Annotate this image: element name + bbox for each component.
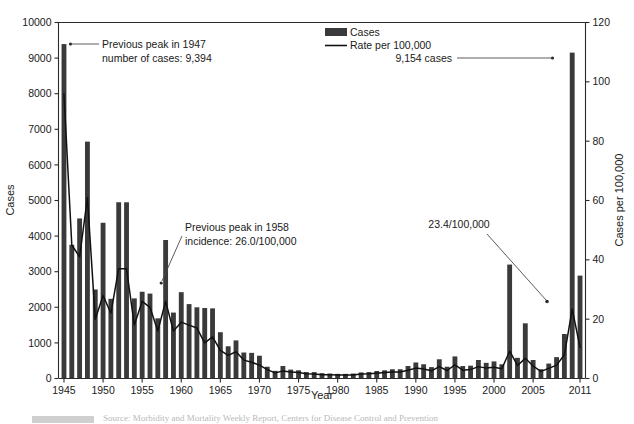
bar-1969 bbox=[249, 353, 254, 379]
bar-1965 bbox=[218, 332, 223, 378]
x-tick-label-1955: 1955 bbox=[130, 384, 154, 396]
annotation-rate-2010-pointer bbox=[545, 300, 549, 304]
annotation-peak-1958-line2: incidence: 26.0/100,000 bbox=[185, 235, 297, 247]
y-tick-label-9000: 9000 bbox=[28, 52, 52, 64]
bar-1993 bbox=[437, 359, 442, 378]
bar-1999 bbox=[484, 363, 489, 379]
bar-1946 bbox=[69, 245, 74, 379]
y-tick-label-10000: 10000 bbox=[22, 16, 51, 28]
bar-2011 bbox=[578, 276, 583, 379]
bar-1998 bbox=[476, 360, 481, 379]
y-tick-label-0: 0 bbox=[46, 372, 52, 384]
x-tick-label-2011: 2011 bbox=[569, 384, 592, 396]
y-axis-right-title: Cases per 100,000 bbox=[613, 154, 625, 247]
bar-1985 bbox=[374, 371, 379, 378]
x-tick-label-1970: 1970 bbox=[248, 384, 272, 396]
annotation-peak-1947-line2: number of cases: 9,394 bbox=[102, 52, 212, 64]
y-axis-left-title: Cases bbox=[4, 184, 16, 216]
annotation-cases-2010-label: 9,154 cases bbox=[395, 52, 452, 64]
annotation-cases-2010-pointer bbox=[551, 56, 554, 59]
legend-swatch-cases bbox=[325, 28, 347, 36]
bar-1948 bbox=[85, 142, 90, 379]
y-tick-label-5000: 5000 bbox=[28, 194, 52, 206]
x-tick-label-1965: 1965 bbox=[209, 384, 233, 396]
y-tick-label-2000: 2000 bbox=[28, 301, 52, 313]
bar-1974 bbox=[288, 370, 293, 379]
bar-2004 bbox=[523, 323, 528, 378]
bar-1968 bbox=[241, 353, 246, 379]
y-tick-label-3000: 3000 bbox=[28, 265, 52, 277]
bar-1991 bbox=[421, 364, 426, 378]
x-tick-label-1950: 1950 bbox=[91, 384, 115, 396]
bar-1975 bbox=[296, 370, 301, 378]
chart-figure: 0100020003000400050006000700080009000100… bbox=[0, 0, 634, 424]
y2-tick-label-40: 40 bbox=[593, 253, 605, 265]
figure-caption-strip: Source: Morbidity and Mortality Weekly R… bbox=[0, 415, 634, 424]
x-tick-label-1945: 1945 bbox=[52, 384, 76, 396]
y2-tick-label-20: 20 bbox=[593, 313, 605, 325]
bar-2005 bbox=[531, 360, 536, 379]
y2-tick-label-0: 0 bbox=[593, 372, 599, 384]
bar-1992 bbox=[429, 367, 434, 378]
y2-tick-label-60: 60 bbox=[593, 194, 605, 206]
y-tick-label-7000: 7000 bbox=[28, 123, 52, 135]
annotation-peak-1947-pointer bbox=[69, 42, 72, 45]
caption-text: Source: Morbidity and Mortality Weekly R… bbox=[103, 415, 438, 423]
annotation-peak-1958-pointer bbox=[160, 281, 163, 284]
bar-2008 bbox=[554, 357, 559, 378]
bar-1997 bbox=[468, 366, 473, 379]
x-tick-label-2005: 2005 bbox=[521, 384, 545, 396]
bar-1964 bbox=[210, 308, 215, 378]
y-tick-label-4000: 4000 bbox=[28, 230, 52, 242]
y2-tick-label-100: 100 bbox=[593, 75, 611, 87]
bar-1966 bbox=[226, 346, 231, 378]
bar-1990 bbox=[413, 362, 418, 378]
bar-2010 bbox=[570, 53, 575, 379]
y2-tick-label-120: 120 bbox=[593, 16, 611, 28]
bar-1967 bbox=[234, 340, 239, 378]
x-tick-label-1995: 1995 bbox=[443, 384, 467, 396]
annotation-peak-1958-line1: Previous peak in 1958 bbox=[185, 221, 289, 233]
bar-1952 bbox=[116, 202, 121, 378]
bar-1953 bbox=[124, 202, 129, 378]
x-tick-label-1990: 1990 bbox=[404, 384, 428, 396]
caption-swatch bbox=[32, 416, 94, 423]
bar-2007 bbox=[546, 364, 551, 379]
x-tick-label-1975: 1975 bbox=[287, 384, 311, 396]
bar-1977 bbox=[312, 372, 317, 378]
bar-1962 bbox=[194, 307, 199, 378]
bar-2002 bbox=[507, 265, 512, 379]
bar-1970 bbox=[257, 356, 262, 379]
legend-label-rate: Rate per 100,000 bbox=[350, 39, 431, 51]
bar-1973 bbox=[280, 366, 285, 378]
pertussis-cases-and-rate-chart: 0100020003000400050006000700080009000100… bbox=[0, 0, 634, 424]
annotation-peak-1947-line1: Previous peak in 1947 bbox=[102, 38, 206, 50]
bar-1960 bbox=[179, 292, 184, 378]
annotation-rate-2010-label: 23.4/100,000 bbox=[428, 218, 489, 230]
bar-1989 bbox=[406, 366, 411, 378]
y-tick-label-6000: 6000 bbox=[28, 159, 52, 171]
bar-1961 bbox=[187, 304, 192, 378]
y2-tick-label-80: 80 bbox=[593, 135, 605, 147]
x-tick-label-1960: 1960 bbox=[170, 384, 194, 396]
bar-1996 bbox=[460, 366, 465, 378]
x-tick-label-1985: 1985 bbox=[365, 384, 389, 396]
legend-label-cases: Cases bbox=[350, 26, 380, 38]
bar-1995 bbox=[453, 356, 458, 378]
y-tick-label-1000: 1000 bbox=[28, 337, 52, 349]
x-axis-title: Year bbox=[311, 389, 334, 401]
x-tick-label-2000: 2000 bbox=[482, 384, 506, 396]
bar-2000 bbox=[492, 361, 497, 378]
bar-1986 bbox=[382, 370, 387, 378]
bar-1987 bbox=[390, 369, 395, 378]
y-tick-label-8000: 8000 bbox=[28, 87, 52, 99]
bar-1988 bbox=[398, 369, 403, 378]
